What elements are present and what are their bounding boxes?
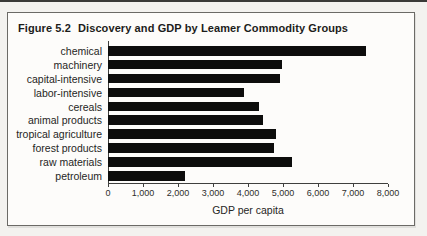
bar-row: tropical agriculture (8, 127, 414, 141)
page-top-rule (0, 0, 427, 2)
x-axis-tick-label: 4,000 (237, 188, 260, 198)
figure-number: Figure 5.2 (18, 22, 71, 34)
x-axis-tick (213, 184, 214, 187)
bar (108, 60, 282, 70)
bar-track (108, 155, 414, 169)
x-axis-tick (388, 184, 389, 187)
bar-chart: chemicalmachinerycapital-intensivelabor-… (8, 44, 414, 216)
bar (108, 74, 280, 84)
bar-track (108, 141, 414, 155)
x-axis-tick (178, 184, 179, 187)
bar-label: chemical (8, 45, 108, 57)
bar-row: animal products (8, 113, 414, 127)
figure-page: Figure 5.2Discovery and GDP by Leamer Co… (0, 0, 427, 236)
x-axis-tick (318, 184, 319, 187)
bar-row: labor-intensive (8, 86, 414, 100)
bar-track (108, 169, 414, 183)
bar-label: labor-intensive (8, 87, 108, 99)
bar-row: raw materials (8, 155, 414, 169)
x-axis-tick-label: 3,000 (202, 188, 225, 198)
x-axis-tick-label: 2,000 (167, 188, 190, 198)
bar-track (108, 100, 414, 114)
bar (108, 46, 366, 56)
x-axis-tick-label: 0 (105, 188, 110, 198)
bar-label: machinery (8, 59, 108, 71)
figure-title: Figure 5.2Discovery and GDP by Leamer Co… (18, 22, 404, 34)
bar-row: chemical (8, 44, 414, 58)
figure-box: Figure 5.2Discovery and GDP by Leamer Co… (7, 12, 415, 226)
bar (108, 88, 244, 98)
x-axis-tick (143, 184, 144, 187)
bar (108, 115, 263, 125)
bar-label: petroleum (8, 170, 108, 182)
bar-track (108, 113, 414, 127)
bar-row: petroleum (8, 169, 414, 183)
figure-title-text: Discovery and GDP by Leamer Commodity Gr… (78, 22, 348, 34)
bar (108, 143, 274, 153)
bar (108, 102, 259, 112)
bar-track (108, 72, 414, 86)
bar-track (108, 127, 414, 141)
bar (108, 171, 185, 181)
bar-rows: chemicalmachinerycapital-intensivelabor-… (8, 44, 414, 183)
bar-track (108, 86, 414, 100)
x-axis-tick (248, 184, 249, 187)
bar-row: cereals (8, 100, 414, 114)
x-axis-tick-label: 1,000 (132, 188, 155, 198)
bar-label: animal products (8, 114, 108, 126)
bar-label: raw materials (8, 156, 108, 168)
bar-track (108, 44, 414, 58)
bar (108, 129, 276, 139)
bar-label: forest products (8, 142, 108, 154)
x-axis-tick-label: 6,000 (307, 188, 330, 198)
x-axis-tick-label: 7,000 (342, 188, 365, 198)
bar-row: machinery (8, 58, 414, 72)
x-axis-tick (353, 184, 354, 187)
bar (108, 157, 292, 167)
bar-row: capital-intensive (8, 72, 414, 86)
x-axis: 01,0002,0003,0004,0005,0006,0007,0008,00… (108, 183, 388, 201)
x-axis-tick (108, 184, 109, 187)
x-axis-tick-label: 8,000 (377, 188, 400, 198)
bar-row: forest products (8, 141, 414, 155)
x-axis-title: GDP per capita (108, 204, 388, 216)
bar-track (108, 58, 414, 72)
bar-label: tropical agriculture (8, 128, 108, 140)
x-axis-tick (283, 184, 284, 187)
x-axis-tick-label: 5,000 (272, 188, 295, 198)
bar-label: capital-intensive (8, 73, 108, 85)
bar-label: cereals (8, 101, 108, 113)
